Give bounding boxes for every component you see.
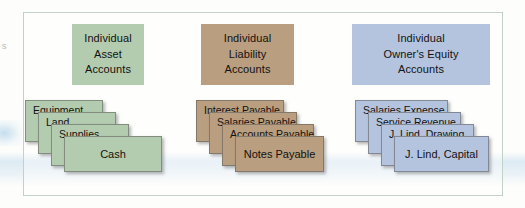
account-card-label: J. Lind, Capital [405,147,478,162]
account-card-cash[interactable]: Cash [64,136,162,172]
account-card-lind-capital[interactable]: J. Lind, Capital [394,136,489,172]
header-line: Owner's Equity [383,47,458,63]
header-line: Asset [94,47,122,63]
account-card-label: Cash [100,147,126,162]
account-card-notes-payable[interactable]: Notes Payable [235,136,324,172]
header-line: Liability [229,47,267,63]
diagram-screenshot: s Individual Asset Accounts Equipment La… [0,0,525,208]
account-card-label: Notes Payable [244,147,316,162]
header-card-liability: Individual Liability Accounts [201,24,294,85]
header-line: Accounts [398,62,444,78]
header-line: Individual [84,31,131,47]
header-line: Accounts [85,62,131,78]
header-line: Individual [224,31,271,47]
scan-artifact-blot [0,120,22,146]
header-line: Individual [397,31,444,47]
margin-mark: s [2,40,11,52]
header-card-asset: Individual Asset Accounts [72,24,144,85]
header-card-owners-equity: Individual Owner's Equity Accounts [352,24,490,85]
header-line: Accounts [224,62,270,78]
